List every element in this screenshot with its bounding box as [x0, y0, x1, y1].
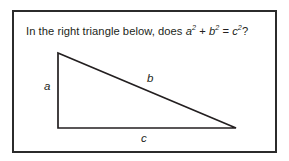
triangle-label-b: b [147, 73, 153, 85]
triangle-label-c: c [141, 133, 147, 145]
figure-container: In the right triangle below, does a2 + b… [0, 0, 289, 161]
triangle-label-a: a [44, 81, 50, 93]
triangle-shape [58, 53, 236, 128]
